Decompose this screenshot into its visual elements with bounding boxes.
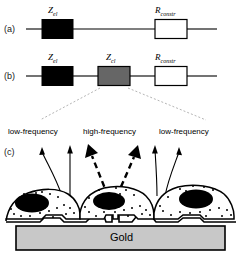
cell-center	[80, 186, 154, 219]
cell-left-nucleus	[15, 194, 49, 213]
label-zcl-b: Zcl	[106, 53, 115, 66]
lf-arrow-head-3	[152, 145, 158, 153]
gold-substrate-label: Gold	[0, 232, 243, 243]
element-box-rconstr-a	[155, 20, 187, 39]
cell-right-nucleus	[179, 190, 213, 209]
lf-arrow-head-1	[39, 147, 45, 155]
label-rconstr-a: Rconstr	[155, 6, 176, 19]
circuit-b	[26, 67, 217, 86]
circuit-a	[26, 20, 217, 39]
label-low-frequency-right: low-frequency	[159, 128, 209, 136]
label-high-frequency-center: high-frequency	[83, 128, 136, 136]
element-box-zel-a	[42, 20, 73, 39]
cell-left	[6, 189, 80, 221]
label-zel-b: Zel	[48, 53, 57, 66]
label-zel-b-subscript: el	[53, 58, 57, 64]
element-box-zel-b	[42, 67, 73, 86]
hf-arrow-head-left	[85, 144, 98, 158]
element-box-rconstr-b	[155, 67, 187, 86]
panel-label-b: (b)	[4, 72, 15, 81]
leader-line-right	[128, 88, 206, 120]
label-low-frequency-left: low-frequency	[8, 128, 58, 136]
element-box-zcl-b	[98, 67, 130, 86]
label-rconstr-a-subscript: constr	[161, 11, 176, 17]
panel-label-a: (a)	[4, 25, 15, 34]
label-zcl-b-subscript: cl	[111, 58, 115, 64]
lf-arrow-shaft-3	[155, 150, 157, 196]
lf-arrow-head-4	[176, 147, 182, 155]
label-rconstr-b-subscript: constr	[161, 58, 176, 64]
hf-arrow-head-right	[128, 145, 141, 159]
leader-lines	[40, 88, 206, 120]
label-rconstr-b: Rconstr	[155, 53, 176, 66]
label-zel-a: Zel	[48, 6, 57, 19]
leader-line-left	[40, 88, 100, 120]
label-zel-a-subscript: el	[53, 11, 57, 17]
figure-root: (a) (b) (c) Zel Rconstr Zel Zcl Rconstr …	[0, 0, 243, 258]
lf-arrow-head-2	[67, 145, 73, 153]
panel-label-c: (c)	[4, 148, 15, 157]
